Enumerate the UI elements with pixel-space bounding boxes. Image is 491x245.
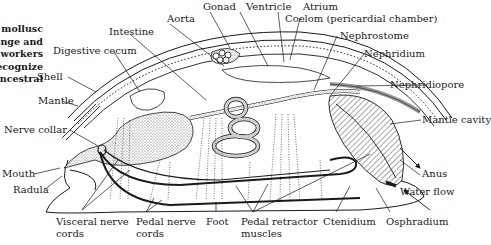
label-pedal-nerve-cords-2: cords (136, 228, 164, 239)
water-flow-arrows (400, 148, 430, 210)
label-water-flow: Water flow (400, 186, 455, 197)
label-mantle-cavity: Mantle cavity (422, 114, 491, 125)
label-anus: Anus (422, 168, 447, 179)
label-visceral-nerve-cords-2: cords (56, 228, 84, 239)
digestive-tract (64, 89, 360, 168)
label-nephrostome: Nephrostome (340, 30, 409, 41)
label-coelom: Coelom (pericardial chamber) (285, 13, 437, 24)
label-radula: Radula (13, 184, 49, 195)
label-ventricle: Ventricle (246, 1, 291, 12)
label-osphradium: Osphradium (386, 216, 448, 227)
label-pedal-retractor-muscles-2: muscles (241, 228, 282, 239)
label-atrium: Atrium (303, 1, 338, 12)
label-gonad: Gonad (203, 1, 236, 12)
label-nephridium: Nephridium (364, 48, 425, 59)
label-mouth: Mouth (2, 168, 35, 179)
label-nerve-collar: Nerve collar (4, 124, 67, 135)
label-pedal-nerve-cords: Pedal nerve (136, 216, 196, 227)
label-shell: Shell (37, 71, 63, 82)
label-mantle: Mantle (38, 95, 74, 106)
label-intestine: Intestine (109, 26, 154, 37)
label-aorta: Aorta (167, 13, 195, 24)
label-pedal-retractor-muscles: Pedal retractor (241, 216, 318, 227)
label-foot: Foot (206, 216, 228, 227)
label-ctenidium: Ctenidium (323, 216, 376, 227)
heart-gonad (211, 48, 330, 82)
label-digestive-cecum: Digestive cecum (53, 45, 137, 56)
label-nephridiopore: Nephridiopore (390, 79, 464, 90)
ctenidium-nephridium (329, 84, 420, 186)
label-visceral-nerve-cords: Visceral nerve (56, 216, 129, 227)
